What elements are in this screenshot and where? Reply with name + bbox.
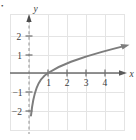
y-tick-label-minus-1: −1 [12, 88, 22, 98]
graph-figure: 1 2 3 4 2 1 −1 −2 y x • [0, 0, 136, 140]
x-tick-label-1: 1 [46, 78, 51, 88]
y-tick-label-1: 1 [17, 51, 22, 61]
figure-background [0, 0, 136, 140]
y-axis-label: y [33, 4, 39, 14]
y-tick-label-2: 2 [17, 32, 22, 42]
x-tick-label-2: 2 [65, 78, 70, 88]
x-tick-label-4: 4 [103, 78, 108, 88]
x-tick-label-3: 3 [84, 78, 89, 88]
y-tick-label-minus-2: −2 [12, 107, 22, 117]
x-axis-label: x [129, 69, 135, 79]
coordinate-plane-svg: 1 2 3 4 2 1 −1 −2 y x • [0, 0, 136, 140]
